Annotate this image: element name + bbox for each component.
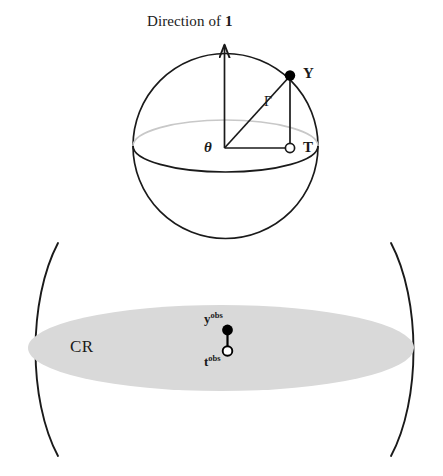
title-prefix-text: Direction of <box>147 13 225 29</box>
y-obs-superscript: obs <box>211 310 223 320</box>
hypotenuse-gamma-label: Γ <box>264 95 272 109</box>
triangle-hypotenuse <box>225 76 291 148</box>
direction-of-one-label: Direction of 1 <box>147 14 233 29</box>
point-y-obs-label: yobs <box>204 312 223 325</box>
sphere-center-theta-label: θ <box>204 140 212 155</box>
t-obs-superscript: obs <box>208 353 220 363</box>
point-T-label: T <box>303 140 313 155</box>
title-vector-symbol: 1 <box>225 13 233 29</box>
sphere-group <box>133 45 318 239</box>
point-Y-marker <box>285 70 295 80</box>
point-t-obs-marker <box>223 346 233 356</box>
confidence-region-label: CR <box>70 338 94 355</box>
figure-container: Direction of 1 Y T θ Γ CR yobs tobs <box>0 0 443 476</box>
point-t-obs-label: tobs <box>204 355 221 368</box>
figure-canvas <box>0 0 443 476</box>
point-T-marker <box>285 143 294 152</box>
point-y-obs-marker <box>222 325 233 336</box>
point-Y-label: Y <box>303 66 314 81</box>
